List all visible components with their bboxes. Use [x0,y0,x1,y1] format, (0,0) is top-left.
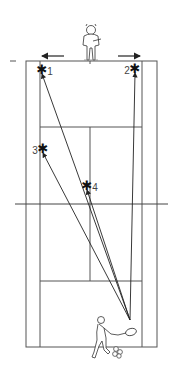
target-4: ✱4 [82,178,99,193]
target-label: 3 [32,145,38,156]
target-2: ✱2 [124,61,140,76]
shot-arrows [42,73,135,320]
tennis-balls-icon [113,347,123,359]
asterisk-icon: ✱ [37,62,48,77]
asterisk-icon: ✱ [38,141,49,156]
asterisk-icon: ✱ [82,178,93,193]
target-3: ✱3 [32,141,48,156]
opponent-player-icon [83,24,101,60]
asterisk-icon: ✱ [130,61,141,76]
target-1: ✱1 [37,62,54,77]
shot-arrow-4 [87,190,130,320]
target-label: 1 [47,66,53,77]
target-label: 2 [124,65,130,76]
shot-arrow-2 [130,73,135,320]
tennis-court-diagram: ✱1✱2✱3✱4 [0,0,178,385]
target-label: 4 [92,182,98,193]
shot-arrow-1 [42,74,130,320]
